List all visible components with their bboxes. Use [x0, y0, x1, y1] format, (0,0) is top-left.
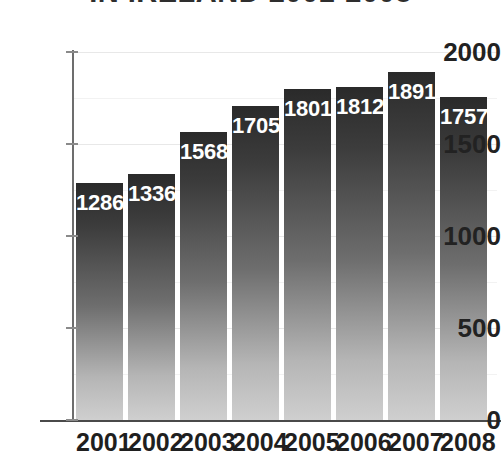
- bar-2006[interactable]: 1812: [336, 87, 383, 420]
- x-tick-label-2001: 2001: [76, 428, 123, 457]
- plot-area: 1286 1336 1568 1705 1801 1812 1891 1757*: [73, 52, 497, 420]
- y-tick-label-1000: 1000: [437, 221, 501, 252]
- bar-2005[interactable]: 1801: [284, 89, 331, 420]
- y-tick-label-500: 500: [437, 313, 501, 344]
- bar-2003[interactable]: 1568: [180, 132, 227, 421]
- x-tick-label-2006: 2006: [336, 428, 383, 457]
- bar-value-2002: 1336: [128, 181, 175, 207]
- bar-value-2004: 1705: [232, 113, 279, 139]
- y-tick-mark-2000: [66, 51, 78, 53]
- bar-2004[interactable]: 1705: [232, 106, 279, 420]
- x-tick-label-2003: 2003: [180, 428, 227, 457]
- y-tick-mark-500: [66, 327, 78, 329]
- x-tick-label-2002: 2002: [128, 428, 175, 457]
- bar-value-2008: 1757*: [440, 104, 487, 130]
- bar-2007[interactable]: 1891: [388, 72, 435, 420]
- y-tick-mark-1000: [66, 235, 78, 237]
- bar-2002[interactable]: 1336: [128, 174, 175, 420]
- x-axis-line: [40, 420, 501, 422]
- y-tick-mark-0: [66, 419, 78, 421]
- x-tick-label-2004: 2004: [232, 428, 279, 457]
- bar-value-2003: 1568: [180, 139, 227, 165]
- y-tick-label-1500: 1500: [437, 129, 501, 160]
- y-tick-label-2000: 2000: [437, 37, 501, 68]
- bar-value-2007: 1891: [388, 79, 435, 105]
- bar-value-2006: 1812: [336, 94, 383, 120]
- bar-2001[interactable]: 1286: [76, 183, 123, 420]
- gridline-2000: [73, 52, 497, 53]
- chart-title: IN IRELAND 2001-2008: [0, 0, 501, 9]
- x-tick-label-2007: 2007: [388, 428, 435, 457]
- chart-screenshot: IN IRELAND 2001-2008 1286 1336 1568 1705…: [0, 0, 501, 473]
- bar-value-2001: 1286: [76, 190, 123, 216]
- x-tick-label-2005: 2005: [284, 428, 331, 457]
- x-tick-label-2008: 2008: [440, 428, 487, 457]
- bar-value-2005: 1801: [284, 96, 331, 122]
- y-tick-mark-1500: [66, 143, 78, 145]
